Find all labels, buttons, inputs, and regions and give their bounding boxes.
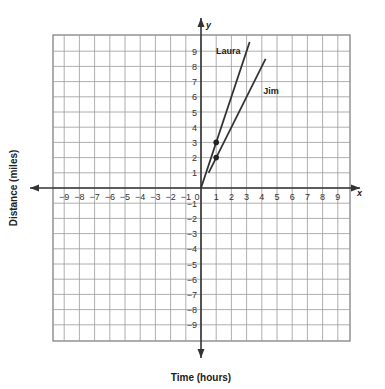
x-tick-label: −6 <box>105 192 115 202</box>
y-tick-label: −9 <box>187 320 197 330</box>
x-tick-label: −3 <box>150 192 160 202</box>
x-tick-label: 3 <box>244 192 249 202</box>
y-tick-label: 1 <box>192 168 197 178</box>
y-axis-title: Distance (miles) <box>8 150 19 227</box>
y-tick-label: 9 <box>192 47 197 57</box>
x-tick-label: 7 <box>305 192 310 202</box>
coordinate-plane-chart: −9−8−7−6−5−4−3−2−10123456789−9−8−7−6−5−4… <box>0 0 385 389</box>
data-point-jim <box>213 155 219 161</box>
x-tick-label: 9 <box>335 192 340 202</box>
y-tick-label: 7 <box>192 77 197 87</box>
x-tick-label: 1 <box>214 192 219 202</box>
y-tick-label: −2 <box>187 214 197 224</box>
x-tick-label: 5 <box>274 192 279 202</box>
y-tick-label: 8 <box>192 62 197 72</box>
x-tick-label: −5 <box>120 192 130 202</box>
series-label: Laura <box>216 46 242 56</box>
y-tick-label: −6 <box>187 275 197 285</box>
series-labels: LauraJim <box>216 46 279 96</box>
x-axis-letter: x <box>356 188 363 198</box>
x-tick-label: −9 <box>59 192 69 202</box>
y-tick-label: 4 <box>192 123 197 133</box>
data-point-laura <box>213 140 219 146</box>
x-axis-title: Time (hours) <box>171 372 231 383</box>
y-tick-label: −1 <box>187 199 197 209</box>
x-tick-label: −4 <box>135 192 145 202</box>
x-tick-label: −2 <box>165 192 175 202</box>
series-label: Jim <box>263 86 279 96</box>
y-tick-label: −7 <box>187 290 197 300</box>
y-axis-letter: y <box>205 20 212 30</box>
y-tick-label: 5 <box>192 108 197 118</box>
x-tick-label: −8 <box>74 192 84 202</box>
x-tick-label: 4 <box>259 192 264 202</box>
x-tick-label: 8 <box>320 192 325 202</box>
x-tick-label: 2 <box>229 192 234 202</box>
y-tick-label: 2 <box>192 153 197 163</box>
y-tick-label: −5 <box>187 260 197 270</box>
x-tick-label: −7 <box>89 192 99 202</box>
y-tick-label: −4 <box>187 244 197 254</box>
series-line-laura <box>201 42 250 188</box>
y-tick-label: 3 <box>192 138 197 148</box>
data-series <box>201 42 266 188</box>
y-tick-label: −8 <box>187 305 197 315</box>
y-tick-label: −3 <box>187 229 197 239</box>
y-tick-label: 6 <box>192 92 197 102</box>
x-tick-label: 6 <box>290 192 295 202</box>
